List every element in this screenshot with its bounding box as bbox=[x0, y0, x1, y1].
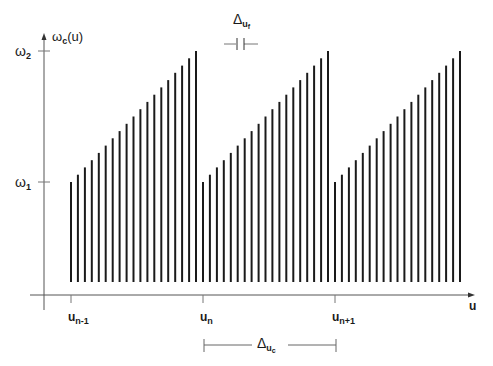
y-axis-label-main: ω bbox=[52, 29, 62, 44]
x-axis-label-text: u bbox=[469, 299, 476, 313]
y-axis-label-arg: (u) bbox=[67, 29, 83, 44]
delta-symbol: Δ bbox=[257, 335, 266, 351]
coarse-spacing-label: Δuc bbox=[257, 336, 276, 354]
y-tick-label-sub: 2 bbox=[26, 51, 31, 61]
x-tick-label-un-1: un-1 bbox=[68, 311, 89, 326]
x-tick-label-sub: n+1 bbox=[339, 316, 355, 326]
y-tick-label-main: ω bbox=[15, 174, 26, 190]
delta-symbol: Δ bbox=[233, 11, 242, 27]
x-axis-arrow-icon bbox=[468, 293, 475, 298]
y-tick-label-main: ω bbox=[15, 43, 26, 59]
x-tick-label-sub: n bbox=[207, 316, 213, 326]
x-axis-label: u bbox=[469, 300, 476, 312]
y-axis-arrow-icon bbox=[42, 33, 47, 40]
coarse-spacing-subsub: c bbox=[272, 347, 276, 354]
x-tick-label-un: un bbox=[200, 311, 213, 326]
fine-spacing-label: Δuf bbox=[233, 12, 250, 30]
frequency-bars bbox=[71, 51, 460, 282]
y-tick-label-sub: 1 bbox=[26, 182, 31, 192]
x-tick-label-sub: n-1 bbox=[75, 316, 89, 326]
y-axis-label: ωc(u) bbox=[52, 30, 83, 46]
y-tick-label-omega1: ω1 bbox=[15, 175, 31, 192]
fine-spacing-indicator bbox=[224, 38, 258, 50]
fine-spacing-subsub: f bbox=[248, 23, 250, 30]
y-tick-label-omega2: ω2 bbox=[15, 44, 31, 61]
x-tick-label-un+1: un+1 bbox=[332, 311, 355, 326]
